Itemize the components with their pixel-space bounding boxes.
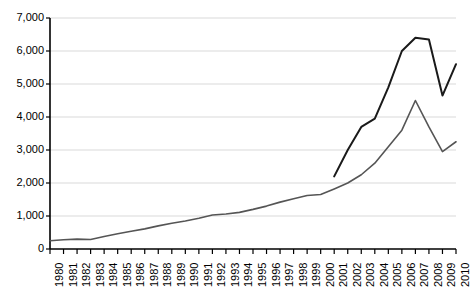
- x-tick-label: 1986: [135, 263, 146, 287]
- x-tick-label: 2010: [460, 263, 471, 287]
- x-tick-label: 2001: [338, 263, 349, 287]
- axis-ticks: [46, 18, 456, 254]
- y-tick-label: 6,000: [16, 45, 44, 56]
- axis-lines: [50, 18, 456, 249]
- y-tick-label: 3,000: [16, 144, 44, 155]
- x-tick-label: 1993: [230, 263, 241, 287]
- x-tick-label: 1991: [203, 263, 214, 287]
- y-tick-label: 0: [38, 243, 44, 254]
- x-tick-label: 1998: [298, 263, 309, 287]
- x-tick-label: 1996: [271, 263, 282, 287]
- series-line-upper-series: [334, 38, 456, 177]
- y-tick-label: 4,000: [16, 111, 44, 122]
- x-tick-label: 2000: [325, 263, 336, 287]
- x-tick-label: 2004: [379, 263, 390, 287]
- y-tick-label: 2,000: [16, 177, 44, 188]
- x-tick-label: 1989: [176, 263, 187, 287]
- x-tick-label: 2007: [419, 263, 430, 287]
- series-line-lower-series: [50, 101, 456, 241]
- x-tick-label: 1995: [257, 263, 268, 287]
- x-tick-label: 1999: [311, 263, 322, 287]
- x-tick-label: 1990: [189, 263, 200, 287]
- x-tick-label: 2003: [365, 263, 376, 287]
- x-tick-label: 2008: [433, 263, 444, 287]
- y-tick-label: 5,000: [16, 78, 44, 89]
- x-tick-label: 1983: [95, 263, 106, 287]
- x-tick-label: 1982: [81, 263, 92, 287]
- x-tick-label: 1997: [284, 263, 295, 287]
- x-tick-label: 1985: [122, 263, 133, 287]
- x-tick-label: 1994: [243, 263, 254, 287]
- x-tick-label: 1984: [108, 263, 119, 287]
- y-tick-label: 1,000: [16, 210, 44, 221]
- x-tick-label: 2005: [392, 263, 403, 287]
- x-tick-label: 1981: [68, 263, 79, 287]
- gridlines: [50, 18, 456, 216]
- x-tick-label: 2009: [446, 263, 457, 287]
- x-tick-label: 2002: [352, 263, 363, 287]
- x-tick-label: 1988: [162, 263, 173, 287]
- series-paths: [50, 38, 456, 241]
- x-tick-label: 1980: [54, 263, 65, 287]
- x-tick-label: 1992: [216, 263, 227, 287]
- x-tick-label: 2006: [406, 263, 417, 287]
- x-tick-label: 1987: [149, 263, 160, 287]
- y-tick-label: 7,000: [16, 12, 44, 23]
